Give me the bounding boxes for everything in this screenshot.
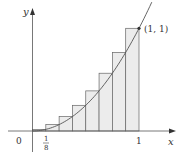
point-1-1 xyxy=(137,27,140,30)
point-annotation: (1, 1) xyxy=(144,24,168,34)
tick-label-1-8-numerator: 1 xyxy=(44,135,48,143)
rectangles xyxy=(33,28,140,131)
y-axis-arrow-icon xyxy=(30,8,35,15)
riemann-rectangle xyxy=(86,91,99,131)
y-axis-label: y xyxy=(22,6,29,17)
origin-label: 0 xyxy=(16,136,22,146)
riemann-rectangle xyxy=(72,105,85,131)
x-axis-arrow-icon xyxy=(169,129,176,134)
riemann-rectangle xyxy=(112,52,125,131)
riemann-sum-chart: y x 0 1 8 1 (1, 1) xyxy=(0,0,185,162)
x-axis-label: x xyxy=(168,136,174,147)
riemann-rectangle xyxy=(126,28,139,131)
tick-label-1-8-denominator: 8 xyxy=(44,144,48,152)
tick-label-1: 1 xyxy=(136,136,142,146)
